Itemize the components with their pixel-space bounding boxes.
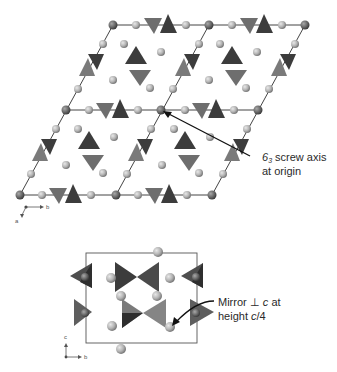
top-axis-indicator: b a: [15, 204, 50, 224]
origin-atom: [157, 106, 166, 115]
mirror-label-line1: Mirror ⊥ c at: [218, 296, 281, 308]
crystal-structure-figure: b a 63 screw axis at origin: [0, 0, 337, 372]
mirror-label-line2: height c/4: [218, 310, 266, 322]
axis-label-a: a: [15, 218, 19, 224]
screw-axis-pointer: [163, 111, 250, 156]
bottom-axis-indicator: b c: [64, 334, 88, 360]
screw-axis-label-line1: 63 screw axis: [262, 151, 327, 164]
top-panel-hexagonal-lattice: b a 63 screw axis at origin: [15, 14, 327, 224]
axis-label-c: c: [64, 334, 67, 340]
axis-label-b: b: [84, 354, 88, 360]
screw-axis-label-line2: at origin: [262, 165, 301, 177]
axis-label-b: b: [46, 204, 50, 210]
bottom-panel-unit-cell: b c Mirror ⊥ c at height c/4: [64, 247, 281, 360]
bowtie-top: [115, 262, 137, 292]
unit-cell-outline: [86, 253, 197, 343]
